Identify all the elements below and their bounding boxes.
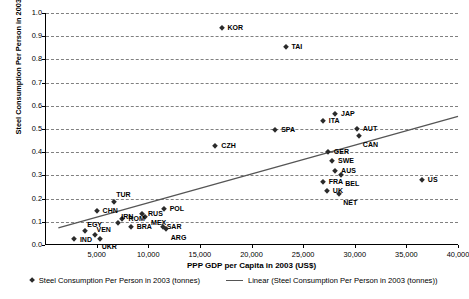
- data-point-label: SPA: [281, 126, 295, 134]
- data-point-label: TAI: [292, 43, 303, 51]
- x-tick-mark: [355, 245, 356, 248]
- data-point-label: NET: [343, 199, 357, 207]
- data-point-label: JAP: [341, 110, 355, 118]
- data-point-label: BRA: [137, 223, 152, 231]
- data-point-label: SWE: [338, 157, 354, 165]
- x-tick-label: 35,000: [395, 251, 418, 259]
- data-point-label: AUT: [363, 125, 377, 133]
- data-point-label: CHN: [103, 207, 118, 215]
- y-tick-label: 0.1: [2, 218, 42, 226]
- x-tick-label: 30,000: [343, 251, 366, 259]
- x-tick-label: 40,000: [447, 251, 469, 259]
- data-point-label: TUR: [116, 191, 130, 199]
- y-tick-label: 0.3: [2, 171, 42, 179]
- x-tick-mark: [303, 245, 304, 248]
- data-point-label: SAR: [167, 223, 182, 231]
- x-tick-mark: [148, 245, 149, 248]
- data-point-label: CZH: [221, 142, 235, 150]
- legend-entry-scatter: Steel Consumption Per Person in 2003 (to…: [30, 276, 200, 285]
- legend-entry-trendline: Linear (Steel Consumption Per Person in …: [226, 276, 438, 285]
- data-point-label: US: [428, 176, 438, 184]
- data-point-label: FRA: [329, 178, 343, 186]
- chart-legend: Steel Consumption Per Person in 2003 (to…: [0, 276, 467, 285]
- data-point-label: RUS: [148, 210, 163, 218]
- data-point-label: ITA: [329, 117, 340, 125]
- y-tick-label: 0.0: [2, 241, 42, 249]
- plot-area: KORTAIJAPITAAUTSPACANCZHGERSWEAUSBELUSFR…: [45, 13, 458, 245]
- data-point-label: BEL: [345, 180, 359, 188]
- data-point-label: KOR: [228, 24, 244, 32]
- x-tick-mark: [406, 245, 407, 248]
- x-tick-label: 20,000: [240, 251, 263, 259]
- x-tick-label: 25,000: [292, 251, 315, 259]
- legend-label-scatter: Steel Consumption Per Person in 2003 (to…: [39, 276, 200, 285]
- data-point-label: IND: [80, 236, 92, 244]
- data-point-label: CAN: [363, 141, 378, 149]
- y-tick-label: 0.4: [2, 148, 42, 156]
- x-tick-mark: [200, 245, 201, 248]
- x-tick-mark: [252, 245, 253, 248]
- x-tick-mark: [97, 245, 98, 248]
- x-tick-mark: [458, 245, 459, 248]
- data-point-label: VEN: [97, 226, 111, 234]
- x-tick-label: 5,000: [87, 251, 106, 259]
- x-tick-label: 15,000: [189, 251, 212, 259]
- diamond-marker-icon: [29, 278, 35, 284]
- data-point-label: IRN: [121, 213, 133, 221]
- y-tick-label: 0.2: [2, 195, 42, 203]
- line-marker-icon: [226, 280, 243, 281]
- data-point-label: POL: [170, 205, 184, 213]
- data-point-label: GER: [334, 148, 349, 156]
- x-tick-label: 10,000: [137, 251, 160, 259]
- x-axis-title: PPP GDP per Capita in 2003 (US$): [45, 261, 458, 270]
- legend-label-trendline: Linear (Steel Consumption Per Person in …: [248, 276, 438, 285]
- data-point-label: ARG: [171, 234, 187, 242]
- y-axis-title: Steel Consumption Per Person in 2003 (to…: [14, 0, 23, 135]
